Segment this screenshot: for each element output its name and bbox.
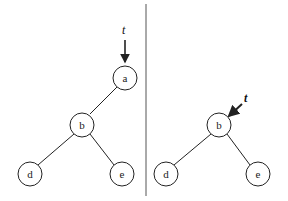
svg-text:d: d xyxy=(163,168,169,180)
pointer-label-t: t xyxy=(244,91,248,105)
node-d: d xyxy=(18,162,42,186)
right-tree: t b d e xyxy=(154,91,270,186)
node-e: e xyxy=(246,162,270,186)
node-a: a xyxy=(113,66,137,90)
svg-text:e: e xyxy=(120,168,125,180)
edge-b-d xyxy=(174,134,211,165)
left-tree: t a b d e xyxy=(18,23,137,186)
svg-text:a: a xyxy=(123,72,128,84)
node-e: e xyxy=(110,162,134,186)
edge-b-e xyxy=(90,134,114,165)
svg-text:d: d xyxy=(27,168,33,180)
svg-text:b: b xyxy=(216,119,222,131)
tree-diagram: t a b d e t b d xyxy=(0,0,288,201)
pointer-arrow xyxy=(229,104,242,116)
node-b: b xyxy=(70,113,94,137)
node-b: b xyxy=(207,113,231,137)
edge-b-d xyxy=(38,134,74,165)
svg-text:b: b xyxy=(79,119,85,131)
edge-a-b xyxy=(90,87,117,114)
pointer-label-t: t xyxy=(122,23,126,37)
svg-text:e: e xyxy=(256,168,261,180)
node-d: d xyxy=(154,162,178,186)
edge-b-e xyxy=(227,134,250,165)
